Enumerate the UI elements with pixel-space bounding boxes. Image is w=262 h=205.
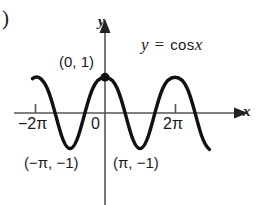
point-label-minimum-right: (π, −1) (113, 155, 159, 170)
equation-equals: = (154, 35, 166, 54)
x-tick-label-zero: 0 (91, 116, 100, 132)
equation-function-name: cos (170, 36, 195, 53)
equation-argument: x (195, 35, 203, 54)
y-axis-label: y (98, 14, 105, 29)
coordinate-plane-svg (0, 0, 262, 205)
x-tick-label-2pi: 2π (163, 116, 183, 132)
point-marker-0-1 (101, 73, 110, 82)
x-axis-label: x (243, 104, 251, 119)
point-label-maximum: (0, 1) (59, 54, 94, 69)
point-label-minimum-left: (−π, −1) (24, 155, 79, 170)
equation-label: y = cosx (141, 36, 203, 53)
equation-lhs: y (141, 35, 149, 54)
cosine-graph-figure: ) y x y = cosx −2π 0 2π (0, 1) (−π, −1) … (0, 0, 262, 205)
x-tick-label-neg-2pi: −2π (18, 116, 47, 132)
